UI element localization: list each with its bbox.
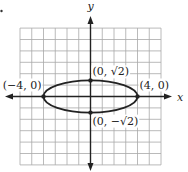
data-point	[41, 94, 45, 98]
x-axis-label: x	[177, 91, 184, 104]
point-label: (0, √2)	[93, 65, 130, 78]
data-point	[88, 78, 92, 82]
x-arrow-left-icon	[5, 94, 13, 100]
y-arrow-up-icon	[88, 16, 94, 24]
point-label: (0, −√2)	[93, 115, 139, 128]
x-arrow-right-icon	[164, 94, 172, 100]
point-label: (−4, 0)	[3, 79, 42, 92]
data-point	[135, 94, 139, 98]
y-axis-label: y	[87, 0, 95, 13]
y-arrow-down-icon	[88, 163, 94, 171]
stray-dot	[0, 10, 2, 12]
ellipse-graph: xy (0, √2)(0, −√2)(−4, 0)(4, 0)	[0, 0, 188, 172]
point-label: (4, 0)	[140, 79, 170, 92]
